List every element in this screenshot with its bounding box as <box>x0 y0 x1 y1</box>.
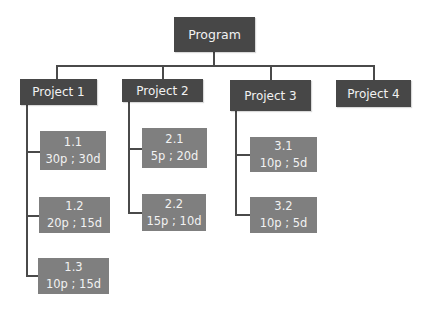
project-3-node: Project 3 <box>230 80 311 111</box>
task-detail: 30p ; 30d <box>45 151 100 168</box>
task-1-3-node: 1.3 10p ; 15d <box>38 258 109 294</box>
task-id: 1.2 <box>65 198 83 215</box>
task-detail: 10p ; 5d <box>260 215 308 232</box>
task-id: 2.2 <box>165 196 183 213</box>
task-detail: 20p ; 15d <box>47 215 102 232</box>
connector-program-stub <box>213 52 215 66</box>
connector-p3-task-2 <box>235 214 250 216</box>
task-2-1-node: 2.1 5p ; 20d <box>142 128 207 168</box>
connector-p2-task-1 <box>128 148 142 150</box>
project-3-label: Project 3 <box>244 89 297 103</box>
task-1-1-node: 1.1 30p ; 30d <box>40 131 106 170</box>
connector-p1-task-3 <box>26 275 38 277</box>
task-detail: 15p ; 10d <box>146 213 201 230</box>
task-id: 3.2 <box>274 198 292 215</box>
connector-project-4 <box>373 65 375 80</box>
task-id: 3.1 <box>274 138 292 155</box>
connector-p1-vertical <box>26 105 28 277</box>
program-node: Program <box>174 17 255 52</box>
connector-p1-task-1 <box>26 151 40 153</box>
program-label: Program <box>188 27 241 42</box>
connector-project-2 <box>162 65 164 79</box>
task-id: 1.3 <box>64 259 82 276</box>
task-detail: 5p ; 20d <box>151 148 199 165</box>
connector-p1-task-2 <box>26 215 39 217</box>
task-2-2-node: 2.2 15p ; 10d <box>142 194 206 231</box>
task-detail: 10p ; 5d <box>260 155 308 172</box>
task-3-1-node: 3.1 10p ; 5d <box>250 137 317 172</box>
connector-horizontal-bus <box>56 65 375 67</box>
project-1-node: Project 1 <box>20 79 97 105</box>
connector-p3-task-1 <box>235 154 250 156</box>
task-1-2-node: 1.2 20p ; 15d <box>39 197 110 233</box>
org-chart: Program Project 1 Project 2 Project 3 Pr… <box>0 0 430 313</box>
task-id: 2.1 <box>165 131 183 148</box>
connector-project-3 <box>270 65 272 80</box>
project-1-label: Project 1 <box>32 85 85 99</box>
project-4-label: Project 4 <box>347 87 400 101</box>
task-3-2-node: 3.2 10p ; 5d <box>250 197 317 233</box>
connector-p2-task-2 <box>128 212 142 214</box>
task-detail: 10p ; 15d <box>46 276 101 293</box>
connector-p2-vertical <box>128 102 130 214</box>
task-id: 1.1 <box>64 134 82 151</box>
connector-project-1 <box>56 65 58 79</box>
project-4-node: Project 4 <box>336 80 411 107</box>
connector-p3-vertical <box>235 111 237 216</box>
project-2-node: Project 2 <box>122 79 203 102</box>
project-2-label: Project 2 <box>136 84 189 98</box>
